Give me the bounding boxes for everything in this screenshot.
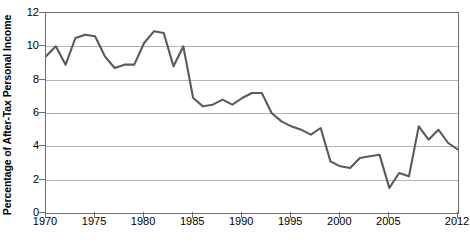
plot-area xyxy=(45,12,459,214)
x-tickmark-1990 xyxy=(241,212,242,218)
x-tickmark-2005 xyxy=(388,212,389,218)
x-tickmark-2000 xyxy=(339,212,340,218)
x-tickmark-1985 xyxy=(192,212,193,218)
series-line-personal-saving-rate xyxy=(46,31,458,188)
x-tickmark-1995 xyxy=(290,212,291,218)
x-tickmark-2012 xyxy=(457,212,458,218)
plot-svg xyxy=(46,13,458,213)
y-tickmark-10 xyxy=(39,45,45,46)
savings-rate-line-chart: Percentage of After-Tax Personal Income … xyxy=(0,0,470,248)
y-tickmark-6 xyxy=(39,112,45,113)
x-tickmark-1970 xyxy=(45,212,46,218)
x-tickmark-1980 xyxy=(143,212,144,218)
y-tickmark-8 xyxy=(39,79,45,80)
x-tickmark-1975 xyxy=(94,212,95,218)
y-tickmark-4 xyxy=(39,145,45,146)
gridlines xyxy=(46,47,458,181)
y-tickmark-12 xyxy=(39,12,45,13)
y-tickmark-2 xyxy=(39,179,45,180)
